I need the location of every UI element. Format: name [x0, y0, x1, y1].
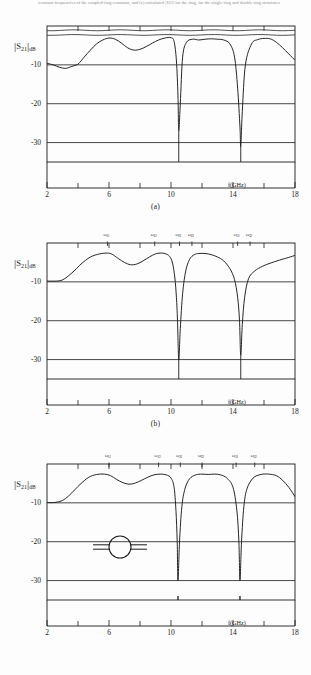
x-tick-label-10: 10	[167, 407, 175, 416]
y-tick-label--10: -10	[31, 277, 41, 286]
header-text-fragment: resonant frequencies of the coupled-ring…	[38, 0, 306, 7]
x-tick-label-18: 18	[291, 628, 299, 637]
plot-frame	[47, 464, 295, 600]
y-tick-label--30: -30	[31, 355, 41, 364]
x-axis-label-b: f(GHz)	[228, 398, 246, 405]
omega-marker-label: ω31	[234, 232, 240, 239]
x-tick-label-6: 6	[107, 190, 111, 199]
figure-panel-b: |S21|dB 26101418-10-20-30 ω11ω12ω21ω22ω3…	[0, 231, 311, 446]
omega-marker-label: ω31	[232, 453, 238, 460]
x-tick-label-2: 2	[45, 628, 49, 637]
y-tick-label--10: -10	[31, 498, 41, 507]
y-tick-label--10: -10	[31, 60, 41, 69]
figure-panel-a: |S21|dB 26101418-10-20-30 f(GHz) (a)	[0, 14, 311, 229]
x-axis-label-c: f(GHz)	[228, 619, 246, 626]
x-tick-label-2: 2	[45, 190, 49, 199]
omega-marker-label: ω12	[155, 453, 161, 460]
x-tick-label-18: 18	[291, 190, 299, 199]
caption-b: (b)	[0, 419, 311, 428]
ring-circle	[109, 536, 131, 558]
x-tick-label-10: 10	[167, 190, 175, 199]
x-tick-label-2: 2	[45, 407, 49, 416]
data-curve	[47, 253, 295, 360]
plot-svg-b: 26101418-10-20-30	[0, 231, 311, 416]
plot-area-b: 26101418-10-20-30 ω11ω12ω21ω22ω31ω32	[0, 231, 311, 416]
x-tick-label-14: 14	[229, 407, 237, 416]
figure-panel-c: |S21|dB 26101418-10-20-30 ω11ω12ω21ω22ω3…	[0, 452, 311, 667]
plot-area-a: 26101418-10-20-30	[0, 14, 311, 199]
omega-marker-label: ω11	[105, 453, 111, 460]
ring-resonator-symbol	[93, 536, 147, 558]
omega-marker-label: ω22	[198, 453, 204, 460]
caption-a: (a)	[0, 202, 311, 211]
reference-trace-second	[47, 35, 295, 36]
data-curve	[47, 37, 295, 146]
omega-marker-label: ω22	[188, 232, 194, 239]
omega-marker-label: ω12	[151, 232, 157, 239]
x-tick-label-6: 6	[107, 407, 111, 416]
y-tick-label--30: -30	[31, 576, 41, 585]
y-tick-label--20: -20	[31, 537, 41, 546]
omega-marker-label: ω11	[103, 232, 109, 239]
x-tick-label-10: 10	[167, 628, 175, 637]
data-curve	[47, 474, 295, 581]
x-tick-label-14: 14	[229, 190, 237, 199]
plot-frame	[47, 243, 295, 379]
omega-marker-label: ω32	[246, 232, 252, 239]
x-axis-label-a: f(GHz)	[228, 181, 246, 188]
y-tick-label--20: -20	[31, 316, 41, 325]
omega-marker-label: ω21	[176, 453, 182, 460]
plot-svg-a: 26101418-10-20-30	[0, 14, 311, 199]
x-tick-label-6: 6	[107, 628, 111, 637]
omega-marker-label: ω21	[176, 232, 182, 239]
plot-area-c: 26101418-10-20-30 ω11ω12ω21ω22ω31ω32	[0, 452, 311, 637]
plot-frame	[47, 26, 295, 162]
omega-marker-label: ω32	[251, 453, 257, 460]
x-tick-label-18: 18	[291, 407, 299, 416]
y-tick-label--20: -20	[31, 99, 41, 108]
plot-svg-c: 26101418-10-20-30	[0, 452, 311, 637]
figure-sheet: resonant frequencies of the coupled-ring…	[0, 0, 311, 675]
x-tick-label-14: 14	[229, 628, 237, 637]
y-tick-label--30: -30	[31, 138, 41, 147]
